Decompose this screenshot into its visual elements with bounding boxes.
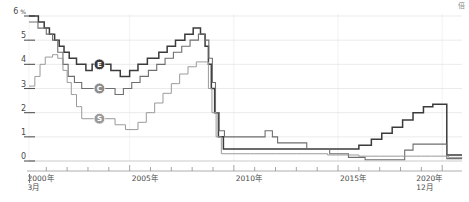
series-line-e [29,16,462,155]
x-axis-tick-label: 2000年3月 [27,174,53,192]
line-chart-plot: ECS [0,0,469,202]
x-axis-group [27,165,462,171]
marker-label: S [97,115,102,123]
y-axis-tick-label: 4 [6,56,26,64]
series-markers-group: ECS [94,59,105,124]
marker-label: C [97,85,102,93]
chart-container: 倍 ECS 0123456 % 2000年3月2005年2010年2015年20… [0,0,469,202]
x-axis-tick-label: 2010年 [236,174,262,183]
series-line-c [29,22,462,160]
series-marker-c[interactable]: C [94,83,105,94]
x-axis-tick-label: 2020年12月 [416,174,442,192]
y-axis-tick-label: 1 [6,129,26,137]
y-axis-unit-label: % [18,8,26,15]
y-axis-tick-label: 5 [6,32,26,40]
x-axis-tick-label: 2015年 [340,174,366,183]
corner-mark-label: 倍 [458,2,465,11]
y-axis-tick-label: 6 % [6,8,26,16]
y-axis-tick-label: 2 [6,105,26,113]
x-axis-tick-label-year: 2020年 [416,174,442,183]
x-axis-origin-tick [29,174,30,183]
y-axis-tick-label: 0 [6,153,26,161]
x-axis-tick-label-month: 12月 [416,183,442,192]
series-marker-e[interactable]: E [94,59,105,70]
x-axis-tick-label-year: 2015年 [340,174,366,183]
x-axis-tick-label-year: 2005年 [132,174,158,183]
x-axis-tick-label-year: 2010年 [236,174,262,183]
y-axis-tick-label: 3 [6,81,26,89]
x-axis-tick-label-month: 3月 [27,183,53,192]
x-axis-tick-label-year: 2000年 [27,174,53,183]
x-axis-tick-label: 2005年 [132,174,158,183]
marker-label: E [97,61,102,69]
series-marker-s[interactable]: S [94,113,105,124]
series-line-s [29,55,462,158]
